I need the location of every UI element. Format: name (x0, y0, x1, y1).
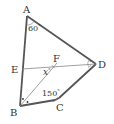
label-f: F (53, 53, 60, 64)
dot-mark-b-2 (27, 101, 29, 103)
segment-ab (20, 16, 27, 106)
segment-bf (20, 63, 57, 106)
tick-mark-d-lower (90, 66, 92, 67)
dot-mark-b-1 (22, 98, 24, 100)
label-d: D (98, 59, 106, 70)
label-e: E (11, 64, 18, 75)
segment-dc (59, 64, 96, 98)
label-b: B (10, 107, 17, 118)
angle-label-f: x° (43, 67, 51, 77)
angle-arc-d (88, 60, 89, 69)
angle-label-c: 150° (42, 88, 60, 98)
angle-label-a: 60° (28, 23, 41, 33)
segment-ed (22, 64, 96, 69)
geometry-diagram: A B C D E F 60° 150° x° (0, 0, 114, 124)
segment-bc (20, 100, 55, 106)
quadrilateral-figure: A B C D E F 60° 150° x° (0, 0, 114, 124)
label-c: C (56, 102, 64, 113)
label-a: A (22, 4, 31, 15)
